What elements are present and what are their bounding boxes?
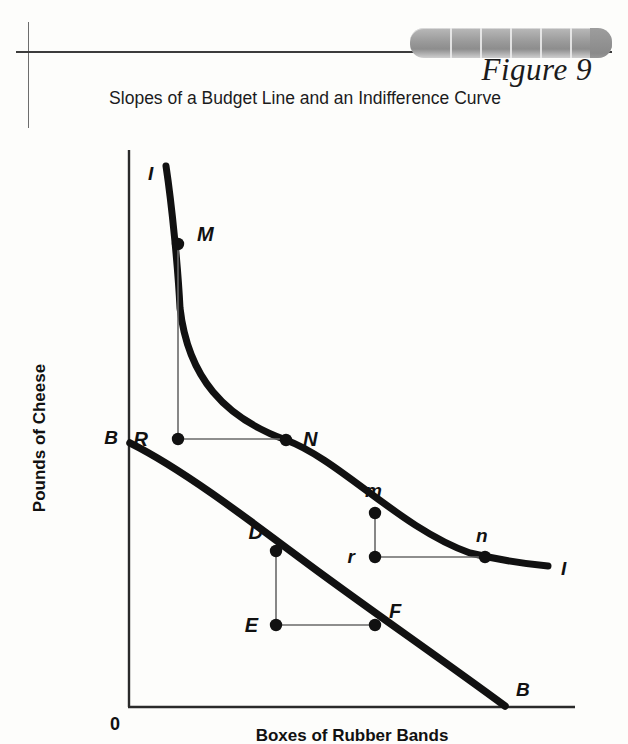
x-axis-title: Boxes of Rubber Bands: [256, 726, 449, 744]
figure-number-label: Figure 9: [482, 52, 592, 88]
figure-header: Figure 9 Slopes of a Budget Line and an …: [0, 0, 628, 128]
point-label-E: E: [245, 614, 259, 636]
point-label-D: D: [249, 521, 263, 543]
header-tab-end-cap: [590, 28, 612, 58]
point-label-N: N: [303, 428, 318, 450]
point-R: [172, 433, 184, 445]
point-label-r: r: [348, 546, 357, 567]
point-label-F: F: [389, 600, 402, 622]
budget-line-label-end: B: [516, 679, 530, 700]
budget-line-label-start: B: [104, 427, 118, 448]
indifference-curve-label-top: I: [148, 163, 154, 184]
point-D: [270, 545, 282, 557]
origin-label: 0: [110, 714, 120, 734]
header-vertical-rule: [28, 22, 29, 128]
chart-area: M R N m r n D E F I I B B 0 Boxes of Rub…: [0, 128, 628, 744]
point-F: [369, 619, 381, 631]
point-label-R: R: [134, 428, 149, 450]
point-label-M: M: [197, 223, 215, 245]
figure-subtitle: Slopes of a Budget Line and an Indiffere…: [0, 88, 610, 109]
helper-triangle-DEF: [276, 552, 374, 625]
point-n: [479, 551, 491, 563]
figure-chart: M R N m r n D E F I I B B 0 Boxes of Rub…: [0, 128, 628, 744]
indifference-curve-label-right: I: [561, 558, 567, 579]
budget-line: [130, 443, 505, 706]
y-axis-title: Pounds of Cheese: [30, 364, 49, 512]
point-label-n: n: [476, 525, 488, 546]
point-N: [280, 434, 292, 446]
point-m: [369, 507, 381, 519]
point-r: [369, 551, 381, 563]
point-E: [270, 619, 282, 631]
point-M: [172, 238, 184, 250]
point-label-m: m: [365, 480, 382, 501]
